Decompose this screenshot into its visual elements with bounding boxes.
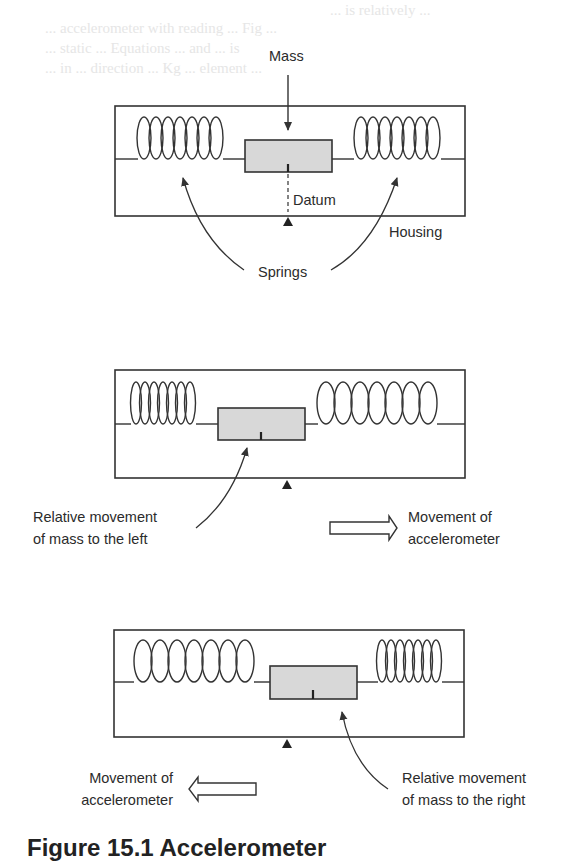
figure-caption: Figure 15.1 Accelerometer [27,834,326,862]
springs-label: Springs [258,264,307,281]
movement-accel-right-line2: accelerometer [408,531,500,548]
mass-label: Mass [269,48,304,65]
movement-accel-left-line1: Movement of [66,770,173,787]
housing-label: Housing [389,224,442,241]
datum-triangle [282,480,292,489]
relative-movement-right-line2: of mass to the right [402,792,525,809]
relative-movement-left-line1: Relative movement [33,509,157,526]
left-spring [137,117,223,159]
relative-movement-right-line1: Relative movement [402,770,526,787]
right-spring [354,117,440,159]
left-spring-compressed [131,382,196,424]
arrow-right-icon [330,516,397,540]
movement-accel-right-line1: Movement of [408,509,492,526]
relative-movement-left-line2: of mass to the left [33,531,147,548]
right-spring-stretched [317,382,437,424]
right-spring-compressed [377,640,442,682]
datum-triangle [283,217,293,226]
datum-triangle [282,739,292,748]
left-spring-stretched [134,640,254,682]
datum-label: Datum [293,192,336,209]
arrow-left-icon [189,777,256,801]
movement-accel-left-line2: accelerometer [56,792,173,809]
